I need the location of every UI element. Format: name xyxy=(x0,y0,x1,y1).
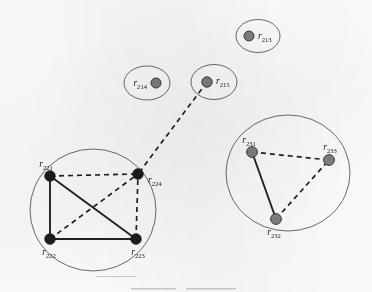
nodes-layer xyxy=(45,31,335,244)
node-r213[interactable] xyxy=(244,31,254,41)
node-label-r215: r215 xyxy=(216,76,230,88)
edges-layer xyxy=(50,82,329,239)
node-r231[interactable] xyxy=(247,147,258,158)
edge-r221-r224 xyxy=(50,174,138,176)
node-r232[interactable] xyxy=(271,214,282,225)
node-label-r233: r233 xyxy=(323,142,337,154)
scan-mark-left xyxy=(131,288,176,289)
node-label-r214: r214 xyxy=(133,78,147,90)
node-label-r223: r223 xyxy=(131,247,145,259)
node-label-r231: r231 xyxy=(242,135,256,147)
node-r222[interactable] xyxy=(45,234,56,245)
node-label-r222: r222 xyxy=(42,247,56,259)
network-cluster-diagram: r213r214r215r221r222r223r224r231r232r233 xyxy=(0,0,372,292)
scan-streak xyxy=(96,276,136,277)
node-r224[interactable] xyxy=(133,169,144,180)
cluster-r23x xyxy=(226,115,350,231)
node-r221[interactable] xyxy=(45,171,56,182)
node-label-r213: r213 xyxy=(258,31,272,43)
node-label-r221: r221 xyxy=(39,159,53,171)
node-r214[interactable] xyxy=(151,78,161,88)
edge-r232-r233 xyxy=(276,160,329,219)
scan-artifacts-layer xyxy=(96,276,236,289)
node-r215[interactable] xyxy=(202,77,212,87)
clusters-layer xyxy=(30,20,350,272)
cluster-r214 xyxy=(124,66,170,100)
edge-r215-r224 xyxy=(138,82,207,174)
scan-mark-right xyxy=(186,288,236,289)
edge-r231-r232 xyxy=(252,152,276,219)
edge-r223-r224 xyxy=(136,174,138,239)
edge-r231-r233 xyxy=(252,152,329,160)
cluster-r215 xyxy=(191,65,237,100)
node-r223[interactable] xyxy=(131,234,142,245)
node-label-r232: r232 xyxy=(267,227,281,239)
labels-layer: r213r214r215r221r222r223r224r231r232r233 xyxy=(39,31,337,259)
node-label-r224: r224 xyxy=(148,175,162,187)
node-r233[interactable] xyxy=(324,155,335,166)
edge-r222-r224 xyxy=(50,174,138,239)
